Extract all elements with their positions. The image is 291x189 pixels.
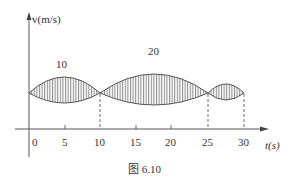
lens-segment-25-30 — [208, 84, 244, 100]
segment-label-20: 20 — [148, 45, 160, 57]
svg-text:10: 10 — [94, 136, 106, 148]
velocity-time-chart: 0 5 10 15 20 25 30 v(m/s) t(s) 10 20 图 6… — [0, 0, 291, 189]
svg-text:25: 25 — [202, 136, 214, 148]
figure-caption: 图 6.10 — [128, 163, 162, 175]
svg-text:20: 20 — [165, 136, 177, 148]
svg-text:0: 0 — [32, 136, 38, 148]
svg-text:5: 5 — [62, 136, 68, 148]
lens-segment-10-25 — [100, 74, 208, 105]
svg-text:15: 15 — [130, 136, 142, 148]
segment-label-10: 10 — [56, 58, 68, 70]
y-axis-label: v(m/s) — [32, 13, 61, 26]
x-axis — [15, 127, 269, 132]
lens-segment-0-10 — [29, 77, 100, 103]
y-axis — [27, 12, 32, 157]
x-axis-ticks — [65, 125, 171, 129]
x-tick-labels: 0 5 10 15 20 25 30 — [32, 136, 250, 148]
svg-text:30: 30 — [238, 136, 250, 148]
x-axis-label: t(s) — [265, 139, 280, 152]
figure: 0 5 10 15 20 25 30 v(m/s) t(s) 10 20 图 6… — [0, 0, 291, 189]
